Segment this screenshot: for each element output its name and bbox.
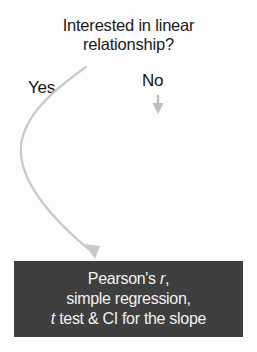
decision-flowchart: Interested in linear relationship? Yes N… — [0, 0, 257, 352]
result-line-1-prefix: Pearson's — [88, 270, 160, 287]
result-box: Pearson's r, simple regression, t test &… — [14, 261, 243, 337]
curved-arrow-yes-icon — [21, 67, 100, 259]
result-line-1-suffix: , — [165, 270, 169, 287]
result-line-1: Pearson's r, — [14, 269, 243, 289]
straight-arrow-no-icon — [153, 96, 164, 114]
result-line-3: t test & CI for the slope — [14, 309, 243, 329]
result-line-2: simple regression, — [14, 289, 243, 309]
result-line-3-suffix: test & CI for the slope — [55, 310, 206, 327]
